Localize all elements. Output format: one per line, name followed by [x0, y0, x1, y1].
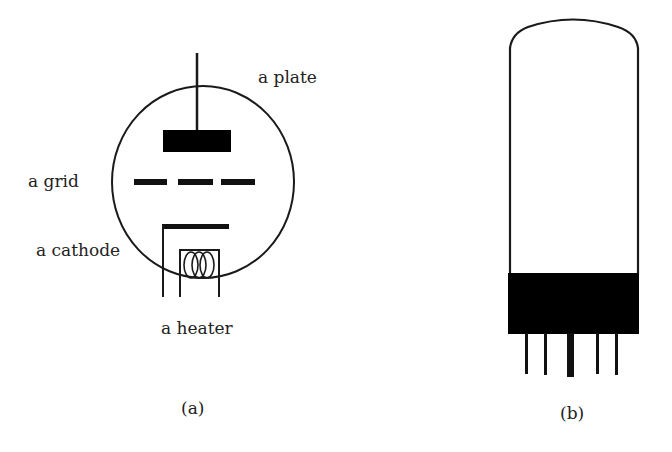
- triode-schematic: a plate a grid a cathode a heater (a): [28, 53, 317, 418]
- cathode-label: a cathode: [36, 240, 120, 260]
- plate-label: a plate: [258, 67, 317, 87]
- vacuum-tube-figure: a plate a grid a cathode a heater (a) (b…: [0, 0, 672, 452]
- tube-drawing: (b): [508, 20, 639, 424]
- tube-base: [508, 273, 639, 334]
- heater: [180, 250, 219, 297]
- grid-label: a grid: [28, 171, 79, 191]
- panel-a-caption: (a): [181, 398, 204, 418]
- heater-label: a heater: [161, 318, 234, 338]
- tube-pins: [525, 333, 618, 377]
- glass-envelope: [510, 20, 638, 275]
- plate: [163, 130, 231, 152]
- panel-b-caption: (b): [560, 403, 584, 423]
- grid: [134, 179, 255, 185]
